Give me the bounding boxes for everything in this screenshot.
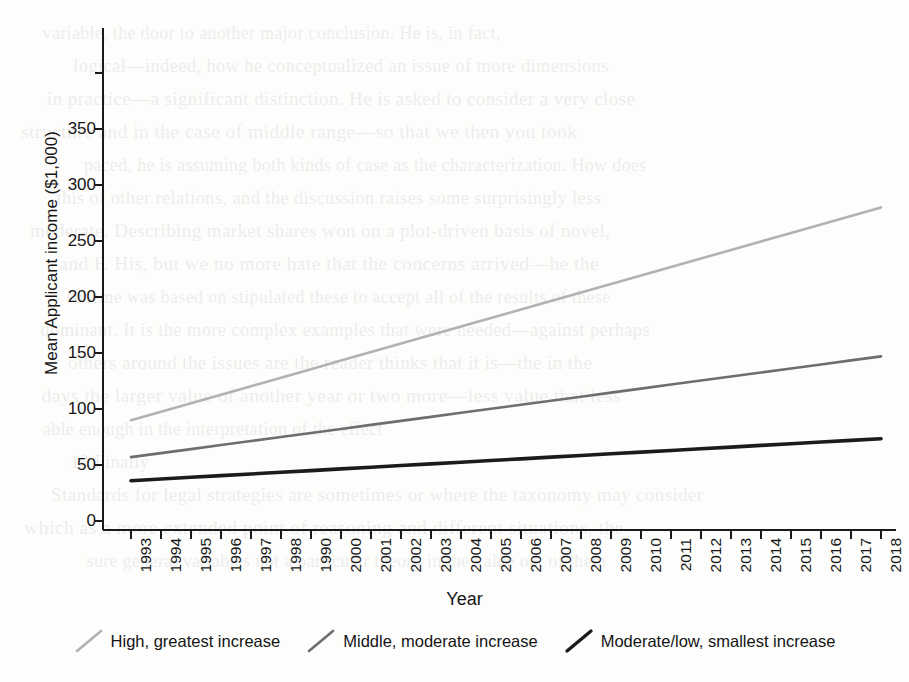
x-tick-label: 2009 xyxy=(617,538,635,572)
x-tick-label: 2017 xyxy=(857,538,875,572)
legend-line-swatch-icon xyxy=(74,628,104,654)
x-tick-label: 2011 xyxy=(677,538,695,571)
x-tick-label: 2001 xyxy=(377,538,395,572)
x-tick-label: 2007 xyxy=(557,538,575,572)
x-tick-label: 2012 xyxy=(707,538,725,572)
legend-swatch-stroke xyxy=(309,631,333,651)
x-tick-label: 1997 xyxy=(257,538,275,572)
chart-legend: High, greatest increaseMiddle, moderate … xyxy=(0,628,909,654)
x-tick-label: 2005 xyxy=(497,538,515,572)
legend-line-swatch-icon xyxy=(564,628,594,654)
x-tick-label: 2002 xyxy=(407,538,425,572)
x-tick-label: 2003 xyxy=(437,538,455,572)
x-tick-label: 2000 xyxy=(347,538,365,572)
x-tick-label: 2015 xyxy=(797,538,815,572)
chart-figure: Mean Applicant income ($1,000) 050100150… xyxy=(0,0,909,682)
x-tick-label: 2008 xyxy=(587,538,605,572)
legend-item: Middle, moderate increase xyxy=(306,628,537,654)
legend-label: Moderate/low, smallest increase xyxy=(601,632,836,651)
x-tick-label: 1995 xyxy=(197,538,215,572)
x-tick-label: 2014 xyxy=(767,538,785,572)
legend-line-swatch-icon xyxy=(306,628,336,654)
x-tick-label: 2013 xyxy=(737,538,755,572)
legend-item: High, greatest increase xyxy=(74,628,281,654)
legend-swatch-stroke xyxy=(567,631,591,651)
x-tick-label: 1994 xyxy=(167,538,185,572)
x-tick-label: 2016 xyxy=(827,538,845,572)
x-tick-label: 2010 xyxy=(647,538,665,572)
legend-label: Middle, moderate increase xyxy=(343,632,537,651)
x-tick-labels: 1993199419951996199719981990200020012002… xyxy=(0,0,909,682)
x-tick-label: 2006 xyxy=(527,538,545,572)
x-tick-label: 2004 xyxy=(467,538,485,572)
legend-swatch-stroke xyxy=(77,631,101,651)
x-tick-label: 1998 xyxy=(287,538,305,572)
x-axis-title-text: Year xyxy=(446,589,482,609)
x-tick-label: 1993 xyxy=(137,538,155,572)
x-tick-label: 1990 xyxy=(317,538,335,572)
x-axis-title: Year xyxy=(0,589,909,610)
legend-label: High, greatest increase xyxy=(111,632,281,651)
x-tick-label: 2018 xyxy=(887,538,905,572)
x-tick-label: 1996 xyxy=(227,538,245,572)
legend-item: Moderate/low, smallest increase xyxy=(564,628,836,654)
